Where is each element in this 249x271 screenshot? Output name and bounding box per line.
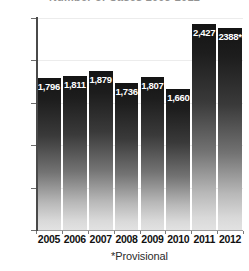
bar-2011: 2,427 [192, 24, 216, 230]
x-axis-tick-mark [217, 231, 218, 234]
bar-2005: 1,796 [37, 78, 61, 230]
x-axis-tick-mark [140, 231, 141, 234]
bar-value-label: 1,811 [63, 79, 87, 90]
bar-2008: 1,736 [115, 83, 139, 230]
bar-value-label: 1,660 [166, 92, 190, 103]
x-axis-tick-label-2008: 2008 [115, 233, 139, 245]
bar-chart-figure: Number of Cases 2005-2012 1,7961,8111,87… [0, 0, 249, 271]
bar-2007: 1,879 [89, 71, 113, 230]
bar-value-label: 1,879 [89, 74, 113, 85]
x-axis-tick-mark [88, 231, 89, 234]
bar-value-label: 1,807 [141, 80, 165, 91]
y-axis-tick-mark [31, 18, 36, 19]
x-axis-tick-label-2011: 2011 [192, 233, 216, 245]
x-axis-tick-label-2005: 2005 [37, 233, 61, 245]
bar-value-label: 1,736 [115, 86, 139, 97]
bar-2010: 1,660 [166, 89, 190, 230]
x-axis-tick-label-2007: 2007 [89, 233, 113, 245]
gridline [36, 18, 243, 19]
x-axis-tick-label-2006: 2006 [63, 233, 87, 245]
x-axis-tick-mark [243, 231, 244, 234]
bar-value-label: 2,427 [192, 27, 216, 38]
x-axis-tick-mark [191, 231, 192, 234]
x-axis-tick-mark [36, 231, 37, 234]
chart-title: Number of Cases 2005-2012 [0, 0, 249, 3]
bar-2012: 2388* [218, 28, 242, 231]
y-axis-tick-mark [31, 60, 36, 61]
y-axis-tick-mark [31, 145, 36, 146]
x-axis-tick-mark [114, 231, 115, 234]
x-axis-tick-mark [165, 231, 166, 234]
x-axis: 20052006200720082009201020112012 [36, 233, 243, 247]
plot-area: 1,7961,8111,8791,7361,8071,6602,4272388* [36, 18, 243, 230]
x-axis-tick-label-2010: 2010 [166, 233, 190, 245]
x-axis-tick-mark [62, 231, 63, 234]
bar-2006: 1,811 [63, 76, 87, 230]
footnote: *Provisional [36, 250, 243, 262]
x-axis-tick-label-2012: 2012 [218, 233, 242, 245]
bar-value-label: 1,796 [37, 81, 61, 92]
y-axis-tick-mark [31, 103, 36, 104]
bar-2009: 1,807 [141, 77, 165, 230]
y-axis-tick-mark [31, 188, 36, 189]
bar-value-label: 2388* [218, 31, 242, 42]
y-axis-line [36, 17, 38, 231]
x-axis-tick-label-2009: 2009 [141, 233, 165, 245]
